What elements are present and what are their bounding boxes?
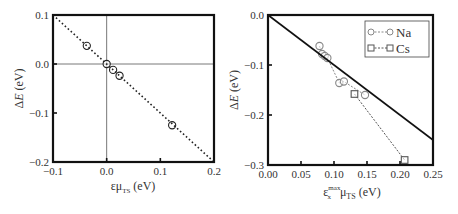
data-point-circle [116, 72, 123, 79]
x-tick-label: 0.05 [291, 168, 311, 180]
legend-circle-icon [387, 29, 393, 35]
figure: −0.10.00.10.20.10.0−0.1−0.2ΔE (eV)εμTS (… [0, 0, 458, 214]
y-axis-label: ΔE (eV) [227, 70, 241, 110]
data-point-circle [316, 42, 323, 49]
right-chart: 0.000.050.100.150.200.250.0−0.1−0.2−0.3Δ… [227, 9, 443, 201]
data-point-circle [340, 78, 347, 85]
y-tick-label: 0.0 [35, 58, 49, 70]
data-point-square [401, 157, 408, 164]
x-tick-label: 0.25 [423, 168, 443, 180]
x-tick-label: 0.2 [207, 165, 221, 177]
series-line-y----x [53, 15, 214, 162]
left-chart: −0.10.00.10.20.10.0−0.1−0.2ΔE (eV)εμTS (… [12, 9, 221, 195]
legend-label-cs: Cs [396, 41, 410, 56]
legend-circle-icon [368, 29, 374, 35]
y-tick-label: −0.2 [29, 156, 49, 168]
x-tick-label: 0.10 [324, 168, 344, 180]
x-tick-label: 0.20 [390, 168, 410, 180]
data-point-circle [361, 91, 368, 98]
y-tick-label: 0.0 [250, 9, 264, 21]
legend-label-na: Na [396, 25, 411, 40]
y-tick-label: 0.1 [35, 9, 49, 21]
y-tick-label: −0.1 [29, 107, 49, 119]
y-tick-label: −0.1 [244, 59, 264, 71]
data-point-square [351, 91, 358, 98]
legend-square-icon [387, 45, 393, 51]
series-line-cs [355, 94, 405, 160]
x-axis-label: εμTS (eV) [111, 179, 156, 195]
x-tick-label: 0.15 [357, 168, 377, 180]
y-tick-label: −0.3 [244, 159, 264, 171]
x-axis-label: εmaxxμTS (eV) [323, 184, 380, 201]
x-tick-label: 0.1 [153, 165, 167, 177]
legend-square-icon [368, 45, 374, 51]
legend: NaCs [365, 21, 429, 57]
y-tick-label: −0.2 [244, 109, 264, 121]
x-tick-label: 0.0 [100, 165, 114, 177]
y-axis-label: ΔE (eV) [12, 68, 26, 108]
